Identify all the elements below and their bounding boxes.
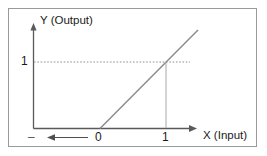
y-axis-label: Y (Output): [40, 15, 93, 27]
x-axis-label: X (Input): [203, 130, 247, 142]
y-axis-tick-label-1: 1: [21, 55, 28, 67]
figure-border: [8, 8, 257, 147]
x-axis-tick-label-1: 1: [162, 131, 169, 143]
figure-root: Y (Output) X (Input) 1 0 1 –: [0, 0, 267, 156]
x-axis-origin-label: 0: [95, 131, 102, 143]
negative-axis-dash-label: –: [28, 131, 35, 143]
